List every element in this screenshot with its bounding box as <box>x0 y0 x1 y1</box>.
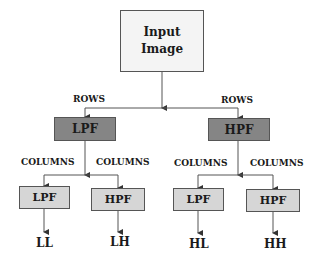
level2-ll-label: LPF <box>33 191 57 204</box>
output-hh: HH <box>264 237 287 251</box>
level1-lpf-label: LPF <box>72 122 98 136</box>
level2-hl-label: LPF <box>187 193 211 206</box>
level1-lpf-box: LPF <box>54 117 116 141</box>
input-image-box: Input Image <box>120 10 204 72</box>
level2-hh-label: HPF <box>260 194 286 207</box>
level1-hpf-box: HPF <box>208 118 270 141</box>
rows-label-right: ROWS <box>221 95 253 105</box>
level2-lh-hpf-box: HPF <box>91 188 145 211</box>
output-hl: HL <box>189 237 209 251</box>
columns-label-ll: COLUMNS <box>21 157 74 167</box>
level2-hh-hpf-box: HPF <box>246 189 300 212</box>
level2-ll-lpf-box: LPF <box>19 186 70 209</box>
columns-label-rr: COLUMNS <box>250 158 303 168</box>
level2-hl-lpf-box: LPF <box>173 188 224 211</box>
columns-label-rl: COLUMNS <box>174 158 227 168</box>
rows-label-left: ROWS <box>73 94 105 104</box>
input-label-line1: Input <box>141 24 183 41</box>
level2-lh-label: HPF <box>105 193 131 206</box>
level1-hpf-label: HPF <box>225 123 254 137</box>
wavelet-decomposition-diagram: Input Image ROWS ROWS LPF HPF COLUMNS CO… <box>0 0 315 265</box>
columns-label-lr: COLUMNS <box>96 157 149 167</box>
output-lh: LH <box>110 235 130 249</box>
input-label-line2: Image <box>141 41 183 58</box>
output-ll: LL <box>36 236 53 250</box>
